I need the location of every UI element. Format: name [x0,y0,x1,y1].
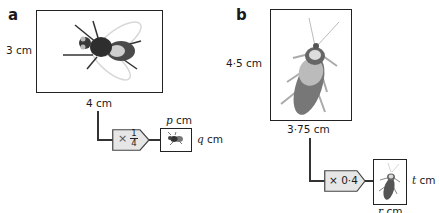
connector-horizontal-a [97,139,113,141]
beetle-icon [271,10,350,119]
beetle-result-frame [373,159,407,205]
fly-result-frame [160,128,192,152]
part-b-label: b [236,6,247,24]
fly-icon [37,11,161,91]
fly-image-frame [36,10,163,93]
part-b-width-label: 3·75 cm [287,123,330,135]
beetle-small-icon [374,160,405,203]
part-a-height-label: 3 cm [6,44,32,56]
times-sign: × [118,132,127,145]
connector-vertical-a [97,111,99,140]
part-a-label: a [8,6,18,24]
fraction-denominator: 4 [130,138,138,148]
scale-operator-b: × 0·4 [324,170,366,192]
result-a-height-label: q cm [197,133,223,145]
part-b-height-label: 4·5 cm [226,57,262,69]
scale-operator-a: × 1 4 [112,129,150,151]
part-a-width-label: 4 cm [86,97,112,109]
beetle-image-frame [270,9,352,121]
connector-horizontal-b [309,180,325,182]
result-b-height-label: t cm [412,174,436,186]
fraction-numerator: 1 [130,129,138,138]
operator-b-label: × 0·4 [329,174,358,186]
fraction-one-quarter: 1 4 [130,129,138,148]
result-a-width-label: p cm [166,114,192,126]
fly-small-icon [161,129,190,150]
result-b-width-label: r cm [378,205,402,213]
connector-vertical-b [309,138,311,181]
connector-to-result-b [365,180,373,182]
